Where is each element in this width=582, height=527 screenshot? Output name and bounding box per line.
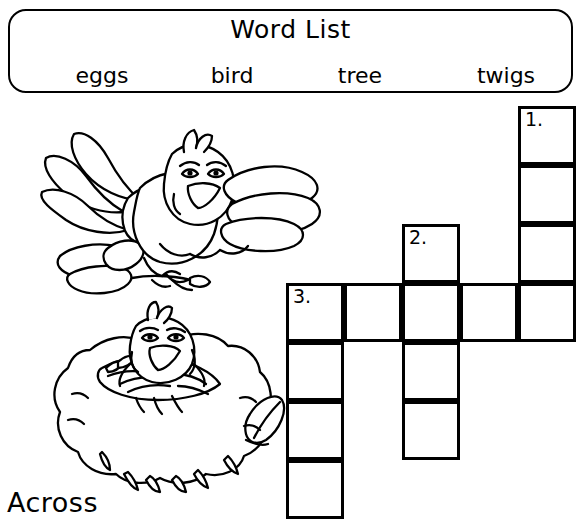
flying-bird-illustration bbox=[22, 128, 330, 298]
crossword-cell-c5-r1[interactable]: 1. bbox=[518, 106, 576, 165]
worksheet-page: Word List eggs bird tree twigs bbox=[0, 0, 582, 527]
crossword-cell-c3-r3[interactable]: 2. bbox=[402, 224, 460, 283]
word-list-item-tree: tree bbox=[338, 63, 382, 88]
word-list-item-bird: bird bbox=[211, 63, 254, 88]
flying-bird-drawing bbox=[22, 128, 330, 298]
crossword-cell-c1-r7[interactable] bbox=[286, 460, 344, 519]
crossword-cell-c5-r4[interactable] bbox=[518, 283, 576, 342]
crossword-cell-c5-r2[interactable] bbox=[518, 165, 576, 224]
nest-bird-drawing bbox=[28, 298, 300, 496]
crossword-cell-c3-r5[interactable] bbox=[402, 342, 460, 401]
crossword-cell-c1-r4[interactable]: 3. bbox=[286, 283, 344, 342]
clue-number-2: 2. bbox=[409, 227, 427, 247]
crossword-cell-c3-r4[interactable] bbox=[402, 283, 460, 342]
crossword-cell-c2-r4[interactable] bbox=[344, 283, 402, 342]
word-list-item-twigs: twigs bbox=[477, 63, 535, 88]
crossword-cell-c5-r3[interactable] bbox=[518, 224, 576, 283]
crossword-cell-c1-r5[interactable] bbox=[286, 342, 344, 401]
clue-number-3: 3. bbox=[293, 286, 311, 306]
nest-bird-illustration bbox=[28, 298, 300, 496]
word-list-panel: Word List eggs bird tree twigs bbox=[8, 9, 573, 93]
word-list-item-eggs: eggs bbox=[76, 63, 129, 88]
crossword-cell-c3-r6[interactable] bbox=[402, 401, 460, 460]
crossword-cell-c1-r6[interactable] bbox=[286, 401, 344, 460]
crossword-cell-c4-r4[interactable] bbox=[460, 283, 518, 342]
word-list-title: Word List bbox=[10, 15, 571, 44]
clue-number-1: 1. bbox=[525, 109, 543, 129]
across-heading: Across bbox=[7, 487, 98, 518]
